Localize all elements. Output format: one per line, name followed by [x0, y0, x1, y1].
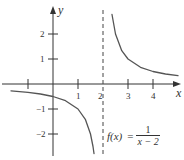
y-axis-label: y [57, 3, 64, 17]
x-axis: 1 2 3 4 x [2, 79, 182, 101]
formula-fraction: 1 x − 2 [136, 124, 159, 147]
x-tick-label-3: 3 [126, 91, 131, 101]
curve-right-branch [112, 15, 178, 76]
x-tick-label-2: 2 [98, 91, 103, 101]
x-tick-label-4: 4 [151, 91, 156, 101]
y-tick-label-neg1: −1 [36, 104, 46, 114]
y-axis: 2 1 −1 −2 y [36, 3, 64, 156]
x-axis-label: x [175, 86, 182, 100]
function-formula-label: f(x) = 1 x − 2 [107, 124, 160, 147]
formula-denominator: x − 2 [136, 136, 159, 147]
x-tick-label-1: 1 [76, 91, 81, 101]
y-tick-label-1: 1 [40, 54, 45, 64]
y-axis-arrow-icon [50, 6, 56, 14]
formula-equals: = [127, 130, 133, 142]
formula-fx: f(x) [107, 130, 122, 142]
y-tick-label-neg2: −2 [36, 129, 46, 139]
y-tick-label-2: 2 [40, 29, 45, 39]
formula-numerator: 1 [144, 124, 153, 135]
